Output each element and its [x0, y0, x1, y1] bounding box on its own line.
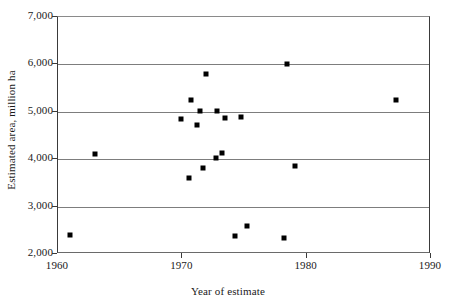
x-axis-tick-mark: [181, 253, 182, 258]
x-axis-tick-label: 1960: [27, 259, 87, 271]
y-axis-tick-mark: [52, 206, 57, 207]
x-axis-tick-mark: [306, 253, 307, 258]
x-axis-tick-label: 1970: [151, 259, 211, 271]
y-axis-tick-mark: [52, 158, 57, 159]
y-axis-tick-mark: [52, 63, 57, 64]
x-axis-tick-label: 1990: [400, 259, 456, 271]
x-axis-tick-labels: 1960197019801990: [0, 0, 456, 305]
x-axis-tick-mark: [430, 253, 431, 258]
y-axis-tick-mark: [52, 111, 57, 112]
scatter-chart-figure: Estimated area, million ha 2,0003,0004,0…: [0, 0, 456, 305]
x-axis-tick-label: 1980: [276, 259, 336, 271]
x-axis-title: Year of estimate: [0, 285, 456, 298]
y-axis-tick-mark: [52, 16, 57, 17]
y-axis-tick-mark: [52, 253, 57, 254]
